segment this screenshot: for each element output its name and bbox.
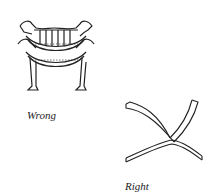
ornate-chair-illustration <box>14 14 98 94</box>
right-caption: Right <box>125 180 149 192</box>
modern-chair-illustration <box>120 98 206 166</box>
modern-chair-icon <box>120 98 206 166</box>
wrong-caption: Wrong <box>27 109 56 121</box>
ornate-chair-icon <box>14 14 98 94</box>
